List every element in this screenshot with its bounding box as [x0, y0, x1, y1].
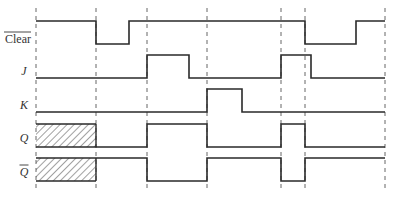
waveform-line [36, 21, 385, 44]
unknown-state-hatch [36, 158, 96, 181]
waveform-line [36, 55, 385, 78]
signal-clear-bar: Clear [4, 32, 31, 46]
signal-q-bar: Q [20, 165, 29, 179]
unknown-state-hatch [36, 124, 96, 147]
signal-label: J [21, 64, 27, 78]
waveform-line [96, 124, 385, 147]
signal-q: Q [20, 131, 29, 145]
waveform-line [36, 89, 385, 112]
waveform-line [96, 158, 385, 181]
signal-waveforms [36, 21, 385, 181]
signal-j: J [21, 64, 27, 78]
signal-label: Q [20, 165, 29, 179]
signal-label: Q [20, 131, 29, 145]
signal-k: K [19, 98, 29, 112]
signal-label: Clear [5, 32, 31, 46]
signal-labels: ClearJKQQ [4, 32, 31, 179]
timing-diagram: ClearJKQQ [0, 0, 397, 204]
signal-label: K [19, 98, 29, 112]
